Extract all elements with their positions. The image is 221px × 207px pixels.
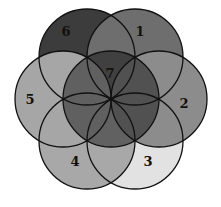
circle-label-3: 3 xyxy=(143,154,152,169)
circle-label-7: 7 xyxy=(105,66,114,81)
circle-label-4: 4 xyxy=(70,154,79,169)
circle-label-2: 2 xyxy=(179,96,188,111)
circle-label-1: 1 xyxy=(135,24,144,39)
circle-label-6: 6 xyxy=(61,24,70,39)
circle-label-5: 5 xyxy=(25,92,34,107)
seven-circle-diagram: 6134527 xyxy=(0,0,221,207)
